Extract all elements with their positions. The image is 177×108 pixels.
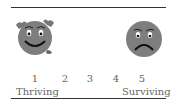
thriving-label: Thriving (16, 86, 59, 97)
surviving-label: Surviving (122, 86, 171, 97)
scale-number-1: 1 (30, 73, 40, 84)
top-rule (11, 7, 166, 8)
sad-face-icon (123, 18, 165, 58)
scale-number-3: 3 (85, 73, 95, 84)
happy-face-icon (14, 17, 56, 57)
bottom-rule (11, 98, 166, 99)
scale-number-4: 4 (111, 73, 121, 84)
scale-number-5: 5 (137, 73, 147, 84)
scale-number-2: 2 (60, 73, 70, 84)
